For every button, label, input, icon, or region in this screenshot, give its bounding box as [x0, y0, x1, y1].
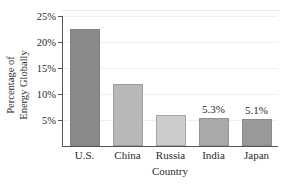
y-axis-tick-label: 5%	[42, 115, 56, 126]
bars-group: 5.3%5.1%	[63, 16, 278, 146]
x-axis-title: Country	[62, 165, 278, 177]
y-axis-tick-label: 15%	[37, 63, 56, 74]
bar-slot	[70, 16, 100, 146]
top-divider-rule	[62, 10, 280, 11]
bar[interactable]	[70, 29, 100, 146]
bar-value-label: 5.1%	[245, 104, 268, 116]
x-axis-tick-label: Russia	[156, 149, 185, 161]
bar-value-label: 5.3%	[202, 103, 225, 115]
y-axis-title-line-1: Percentage of	[5, 50, 18, 120]
bar-chart: Percentage of Energy Globally 5%10%15%20…	[0, 0, 282, 187]
x-axis-tick-label: India	[202, 149, 225, 161]
y-axis-title: Percentage of Energy Globally	[0, 22, 34, 148]
y-axis-tick-label: 25%	[37, 11, 56, 22]
x-axis-tick-label: Japan	[244, 149, 269, 161]
bar-slot	[113, 16, 143, 146]
bar-slot	[156, 16, 186, 146]
bar[interactable]	[156, 115, 186, 146]
y-axis-tick-label: 10%	[37, 89, 56, 100]
bar[interactable]	[242, 119, 272, 146]
x-axis-line	[62, 146, 278, 147]
bar[interactable]	[113, 84, 143, 146]
y-axis-title-line-2: Energy Globally	[17, 50, 30, 120]
y-axis-tick-label: 20%	[37, 37, 56, 48]
x-axis-tick-labels: U.S.ChinaRussiaIndiaJapan	[63, 149, 278, 165]
x-axis-tick-label: China	[114, 149, 140, 161]
bar-slot: 5.1%	[242, 16, 272, 146]
bar[interactable]	[199, 118, 229, 146]
bar-slot: 5.3%	[199, 16, 229, 146]
x-axis-tick-label: U.S.	[75, 149, 95, 161]
plot-area: 5%10%15%20%25% 5.3%5.1%	[62, 16, 278, 146]
